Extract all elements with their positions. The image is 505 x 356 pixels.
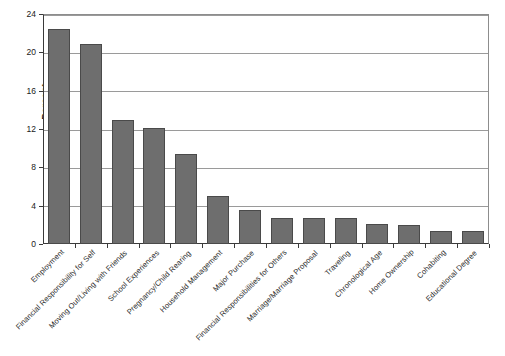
bar-slot (362, 14, 394, 244)
x-axis-tick-mark (298, 244, 299, 248)
y-axis-tick-label: 16 (2, 86, 36, 96)
y-axis-tick-mark (39, 91, 43, 92)
bar-slot (139, 14, 171, 244)
y-axis-tick-mark (39, 14, 43, 15)
bar[interactable] (430, 231, 452, 244)
bars-layer (43, 14, 489, 244)
y-axis-tick-mark (39, 206, 43, 207)
x-axis-tick-mark (330, 244, 331, 248)
bar[interactable] (366, 224, 388, 244)
y-axis-tick-mark (39, 167, 43, 168)
x-axis-tick-mark (425, 244, 426, 248)
y-axis-tick-label: 12 (2, 124, 36, 134)
y-axis-tick-mark (39, 52, 43, 53)
bar[interactable] (112, 120, 134, 244)
x-axis-tick-mark (75, 244, 76, 248)
x-axis-tick-mark (266, 244, 267, 248)
x-axis-tick-mark (489, 244, 490, 248)
bar[interactable] (80, 44, 102, 244)
bar[interactable] (48, 29, 70, 244)
bar[interactable] (335, 218, 357, 244)
x-axis-tick-mark (362, 244, 363, 248)
bar-slot (457, 14, 489, 244)
y-axis-tick-label: 0 (2, 239, 36, 249)
bar-slot (75, 14, 107, 244)
bar[interactable] (143, 128, 165, 244)
x-axis-tick-mark (234, 244, 235, 248)
bar-slot (234, 14, 266, 244)
x-axis-tick-label: Traveling (323, 248, 352, 277)
x-axis-tick-mark (139, 244, 140, 248)
bar-slot (107, 14, 139, 244)
bar[interactable] (271, 218, 293, 244)
y-axis-tick-mark (39, 244, 43, 245)
y-axis-tick-label: 8 (2, 162, 36, 172)
x-axis-tick-label: Cohabiting (415, 248, 448, 281)
bar-slot (202, 14, 234, 244)
bar-chart: Percent EmploymentFinancial Responsibili… (0, 0, 505, 356)
bar[interactable] (303, 218, 325, 244)
x-axis-tick-mark (170, 244, 171, 248)
bar-slot (425, 14, 457, 244)
x-axis-tick-mark (202, 244, 203, 248)
bar-slot (43, 14, 75, 244)
y-axis-tick-label: 20 (2, 47, 36, 57)
bar[interactable] (462, 231, 484, 244)
y-axis-tick-label: 4 (2, 201, 36, 211)
bar-slot (170, 14, 202, 244)
x-axis-tick-mark (107, 244, 108, 248)
y-axis-tick-label: 24 (2, 9, 36, 19)
bar-slot (393, 14, 425, 244)
x-axis-tick-mark (393, 244, 394, 248)
bar-slot (330, 14, 362, 244)
bar[interactable] (207, 196, 229, 244)
bar[interactable] (175, 154, 197, 244)
x-axis-tick-mark (457, 244, 458, 248)
bar[interactable] (398, 225, 420, 244)
bar[interactable] (239, 210, 261, 244)
bar-slot (266, 14, 298, 244)
bar-slot (298, 14, 330, 244)
y-axis-tick-mark (39, 129, 43, 130)
x-axis-tick-label: Household Management (158, 248, 224, 314)
